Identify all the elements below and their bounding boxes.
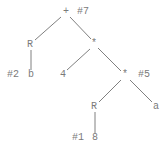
edge-mul1-four [67,49,90,70]
edge-mul1-mul2 [98,48,121,71]
edge-mul2-a [130,80,152,102]
edge-plus-mul1 [70,17,91,39]
node-tag-mul2: #5 [138,70,150,80]
node-r2: R [91,102,97,112]
node-tag-plus: #7 [77,7,89,17]
expression-tree-diagram: +#7Rb#2*4*#5Ra8#1 [0,0,167,154]
node-plus: + [63,7,69,17]
edge-plus-r1 [35,17,61,40]
node-eight: 8 [92,133,98,143]
node-b: b [28,70,34,80]
node-a: a [153,102,159,112]
node-tag-eight: #1 [72,133,84,143]
node-r1: R [27,40,33,50]
node-mul1: * [91,39,97,49]
edge-mul2-r2 [99,80,121,102]
node-four: 4 [60,70,66,80]
node-tag-b: #2 [7,70,19,80]
node-mul2: * [122,70,128,80]
